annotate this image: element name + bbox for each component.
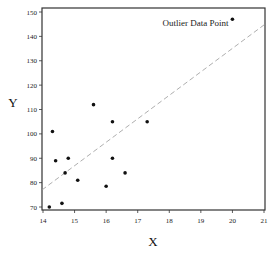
regression-line [42,24,265,190]
outlier-annotation: Outlier Data Point [162,18,228,28]
data-point [111,120,115,124]
y-tick-label: 80 [30,179,38,187]
data-points [48,18,235,209]
x-tick-label: 19 [197,217,205,225]
x-axis: 1415161718192021 [40,210,269,225]
x-tick-label: 15 [71,217,79,225]
data-point [123,171,127,175]
y-tick-label: 70 [30,204,38,212]
data-point [104,184,108,188]
data-point [111,156,115,160]
x-axis-title: X [148,234,158,249]
y-tick-label: 130 [27,57,38,65]
x-tick-label: 21 [261,217,269,225]
y-tick-label: 140 [27,33,38,41]
scatter-chart: 708090100110120130140150 141516171819202… [0,0,276,257]
data-point [54,159,58,163]
annotations: Outlier Data Point [162,18,228,28]
y-tick-label: 120 [27,82,38,90]
x-tick-label: 16 [103,217,111,225]
x-tick-label: 14 [40,217,48,225]
data-point [63,171,67,175]
x-tick-label: 18 [166,217,174,225]
plot-frame [42,8,265,210]
data-point [60,202,64,206]
x-tick-label: 17 [134,217,142,225]
y-tick-label: 100 [27,130,38,138]
x-tick-label: 20 [229,217,237,225]
y-tick-label: 90 [30,155,38,163]
data-point [145,120,149,124]
y-axis: 708090100110120130140150 [27,9,43,212]
y-tick-label: 110 [27,106,38,114]
data-point [92,103,96,107]
data-point [51,130,55,134]
y-axis-title: Y [8,95,18,110]
data-point [76,178,80,182]
data-point [231,18,235,22]
data-point [66,156,70,160]
y-tick-label: 150 [27,9,38,17]
data-point [48,205,52,209]
plot-border [42,8,265,210]
fit-line [42,24,265,190]
